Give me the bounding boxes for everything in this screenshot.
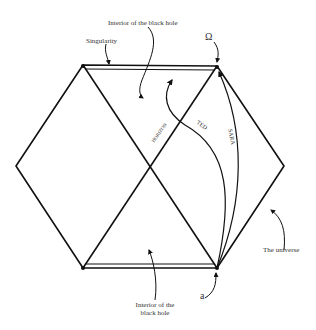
penrose-diagram bbox=[0, 0, 316, 330]
label-interior-bottom-line1: Interior of the bbox=[125, 301, 185, 309]
label-singularity: Singularity bbox=[86, 37, 117, 45]
label-alpha: a bbox=[200, 292, 204, 300]
ted-worldline bbox=[166, 80, 225, 268]
sara-worldline bbox=[217, 72, 238, 268]
universe-arrow bbox=[271, 210, 284, 250]
label-interior-bottom: Interior of the black hole bbox=[125, 301, 185, 317]
label-omega: Ω bbox=[205, 33, 212, 41]
singularity-arrow bbox=[105, 44, 109, 64]
alpha-arrow bbox=[205, 273, 216, 298]
label-interior-top: Interior of the black hole bbox=[108, 19, 178, 27]
vertex-dot bbox=[81, 266, 85, 270]
vertex-dot bbox=[81, 64, 85, 68]
label-interior-bottom-line2: black hole bbox=[125, 309, 185, 317]
label-universe: The universe bbox=[263, 246, 299, 254]
interior-top-arrow bbox=[140, 27, 154, 98]
vertex-dot bbox=[215, 266, 219, 270]
vertex-dot bbox=[215, 65, 219, 69]
omega-arrow bbox=[214, 42, 218, 62]
singularity-top-inner bbox=[85, 69, 215, 70]
interior-bottom-arrow bbox=[149, 250, 156, 300]
